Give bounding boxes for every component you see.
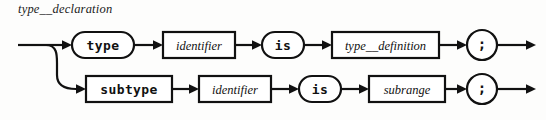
node-punct-semicolon-1[interactable]: ; — [467, 30, 497, 60]
node-nonterminal-identifier-2[interactable]: identifier — [199, 76, 271, 102]
node-punct-semicolon-1-label: ; — [478, 36, 486, 52]
node-keyword-subtype-label: subtype — [100, 82, 158, 97]
arrowhead-into-identifier-1 — [153, 40, 163, 50]
node-nonterminal-type-definition[interactable]: type__definition — [332, 32, 439, 58]
node-keyword-is-2[interactable]: is — [299, 76, 341, 102]
arrowhead-into-is-2 — [289, 84, 299, 94]
railroad-diagram-page: type__declaration type identifier — [0, 0, 546, 120]
node-keyword-is-1-label: is — [275, 38, 291, 53]
node-nonterminal-subrange[interactable]: subrange — [369, 76, 445, 102]
arrowhead-into-type — [62, 40, 72, 50]
node-keyword-type-label: type — [87, 38, 120, 53]
node-keyword-subtype[interactable]: subtype — [86, 76, 172, 102]
node-punct-semicolon-2-label: ; — [478, 80, 486, 96]
arrowhead-into-is-1 — [252, 40, 262, 50]
arrowhead-into-type-definition — [322, 40, 332, 50]
node-nonterminal-identifier-2-label: identifier — [212, 83, 258, 97]
arrowhead-exit-bottom — [526, 84, 536, 94]
arrowhead-fork-into-subtype — [76, 84, 86, 94]
arrowhead-into-semicolon-1 — [457, 40, 467, 50]
row-subtype-branch: subtype identifier is — [86, 74, 536, 104]
railroad-diagram-canvas: type identifier is — [0, 0, 546, 120]
rail-fork-to-subtype — [46, 45, 76, 89]
node-keyword-is-2-label: is — [312, 82, 328, 97]
arrowhead-into-subrange — [359, 84, 369, 94]
node-nonterminal-identifier-1[interactable]: identifier — [163, 32, 235, 58]
arrowhead-into-identifier-2 — [189, 84, 199, 94]
node-nonterminal-identifier-1-label: identifier — [176, 39, 222, 53]
arrowhead-exit-top — [526, 40, 536, 50]
node-nonterminal-type-definition-label: type__definition — [345, 39, 426, 53]
node-keyword-type[interactable]: type — [72, 32, 134, 58]
node-punct-semicolon-2[interactable]: ; — [467, 74, 497, 104]
arrowhead-into-semicolon-2 — [457, 84, 467, 94]
node-nonterminal-subrange-label: subrange — [384, 83, 431, 97]
node-keyword-is-1[interactable]: is — [262, 32, 304, 58]
